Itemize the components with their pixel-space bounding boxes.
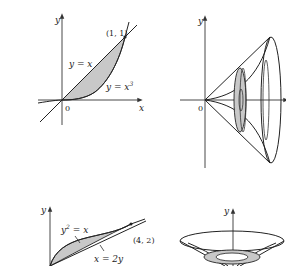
line-y-equals-x <box>40 25 137 122</box>
point-label: (1, 1) <box>106 29 128 38</box>
curve-label-y-equals-x-cubed: y = x3 <box>105 80 133 92</box>
origin-label: 0 <box>198 104 203 113</box>
intersection-point <box>130 223 133 226</box>
figure-region-parabola-line: y y2 = x (4, 2) x = 2y <box>40 205 155 266</box>
figure-solid-y-axis: y <box>180 206 284 266</box>
y-axis-label: y <box>54 15 61 25</box>
y-axis-label: y <box>40 205 47 215</box>
curve-label-y-equals-x: y = x <box>68 59 92 69</box>
leader-line-lower <box>100 245 104 251</box>
curve-label-y-squared-equals-x: y2 = x <box>60 223 88 235</box>
point-label: (4, 2) <box>133 236 155 245</box>
y-axis-label: y <box>223 206 230 216</box>
origin-label: 0 <box>65 104 70 113</box>
x-axis-label: x <box>139 103 144 113</box>
curve-label-x-equals-2y: x = 2y <box>94 254 124 264</box>
figure-region-between-curves: y x 0 (1, 1) y = x y = x3 <box>38 15 144 125</box>
figure-solid-x-axis: y 0 <box>180 16 286 168</box>
washer-hole <box>216 253 248 261</box>
top-ellipse <box>180 231 284 251</box>
y-axis-label: y <box>197 16 204 26</box>
diagram-canvas: y x 0 (1, 1) y = x y = x3 y 0 y y2 <box>0 0 286 266</box>
